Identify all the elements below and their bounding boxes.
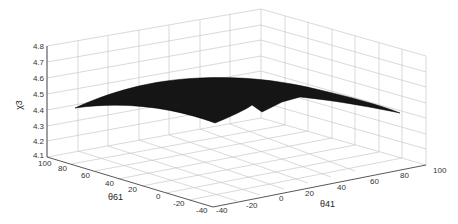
surface-plot: 4.8 4.7 4.6 4.5 4.4 4.3 4.2 4.1 100 80 6… <box>0 0 458 224</box>
z-axis-label: χ3 <box>14 100 24 110</box>
svg-text:-20: -20 <box>246 201 258 210</box>
theta61-axis-label: θ61 <box>108 192 123 202</box>
svg-text:-20: -20 <box>173 199 185 208</box>
z-ticks: 4.8 4.7 4.6 4.5 4.4 4.3 4.2 4.1 <box>33 42 45 160</box>
svg-text:80: 80 <box>58 164 67 173</box>
svg-text:0: 0 <box>156 192 161 201</box>
svg-text:-40: -40 <box>196 206 208 215</box>
svg-text:-40: -40 <box>216 206 228 215</box>
surface <box>75 78 400 124</box>
svg-text:100: 100 <box>433 166 447 175</box>
svg-text:100: 100 <box>38 159 52 168</box>
svg-text:80: 80 <box>400 171 409 180</box>
svg-text:4.3: 4.3 <box>33 122 45 131</box>
svg-text:60: 60 <box>81 171 90 180</box>
svg-text:40: 40 <box>105 179 114 188</box>
theta41-axis-label: θ41 <box>320 199 335 209</box>
svg-text:60: 60 <box>370 177 379 186</box>
theta61-ticks: 100 80 60 40 20 0 -20 -40 <box>38 159 208 215</box>
svg-text:4.7: 4.7 <box>33 58 45 67</box>
svg-text:0: 0 <box>279 194 284 203</box>
svg-text:4.6: 4.6 <box>33 74 45 83</box>
svg-text:4.4: 4.4 <box>33 106 45 115</box>
svg-text:4.8: 4.8 <box>33 42 45 51</box>
svg-text:4.2: 4.2 <box>33 137 45 146</box>
svg-text:40: 40 <box>337 183 346 192</box>
svg-text:20: 20 <box>128 185 137 194</box>
svg-text:4.5: 4.5 <box>33 90 45 99</box>
svg-text:20: 20 <box>305 189 314 198</box>
floor-grid <box>71 124 402 201</box>
